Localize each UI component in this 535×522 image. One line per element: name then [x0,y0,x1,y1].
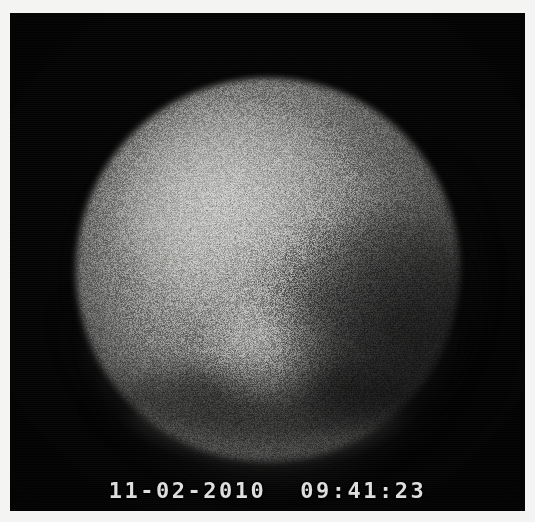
luminous-disc [10,13,525,511]
page-root: 11-02-2010 09:41:23 [0,0,535,522]
disc-shadow-right [278,209,488,439]
camera-frame: 11-02-2010 09:41:23 [10,13,525,511]
